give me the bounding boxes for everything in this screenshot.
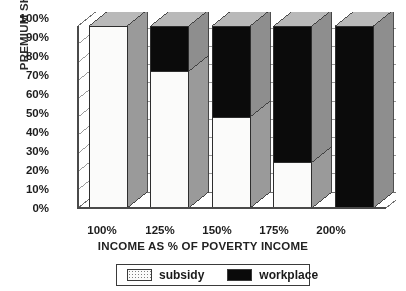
chart-legend: subsidy workplace <box>116 264 310 286</box>
bar-segment <box>89 12 147 208</box>
y-tick-label: 40% <box>26 127 49 137</box>
y-tick-label: 30% <box>26 146 49 156</box>
y-tick-label: 50% <box>26 108 49 118</box>
x-axis-tick-labels: 100% 125% 150% 175% 200% <box>56 224 396 240</box>
plot-svg <box>56 12 396 222</box>
x-tick-label: 200% <box>303 224 359 236</box>
legend-item-subsidy: subsidy <box>127 268 204 282</box>
legend-label-workplace: workplace <box>259 268 318 282</box>
y-tick-label: 90% <box>26 32 49 42</box>
y-tick-label: 70% <box>26 70 49 80</box>
legend-swatch-workplace-icon <box>227 269 252 281</box>
bar-segment <box>151 12 209 72</box>
x-axis-title: INCOME AS % OF POVERTY INCOME <box>0 240 406 252</box>
bar-segment <box>151 56 209 209</box>
x-tick-label: 125% <box>132 224 188 236</box>
bars-layer <box>89 12 393 208</box>
stacked-bar-chart: PREMIUM SHARE 100% 90% 80% 70% 60% 50% 4… <box>0 0 406 291</box>
y-tick-label: 100% <box>20 13 49 23</box>
legend-item-workplace: workplace <box>227 268 318 282</box>
plot-area <box>56 12 396 222</box>
x-tick-label: 175% <box>246 224 302 236</box>
y-tick-label: 60% <box>26 89 49 99</box>
x-tick-label: 150% <box>189 224 245 236</box>
y-tick-label: 10% <box>26 184 49 194</box>
bar-segment <box>335 12 393 208</box>
bar-segment <box>212 12 270 117</box>
x-tick-label: 100% <box>74 224 130 236</box>
y-tick-label: 0% <box>32 203 49 213</box>
bar-segment <box>274 12 332 163</box>
y-tick-label: 20% <box>26 165 49 175</box>
y-axis-tick-labels: 100% 90% 80% 70% 60% 50% 40% 30% 20% 10%… <box>0 0 56 222</box>
y-tick-label: 80% <box>26 51 49 61</box>
legend-swatch-subsidy-icon <box>127 269 152 281</box>
legend-label-subsidy: subsidy <box>159 268 204 282</box>
